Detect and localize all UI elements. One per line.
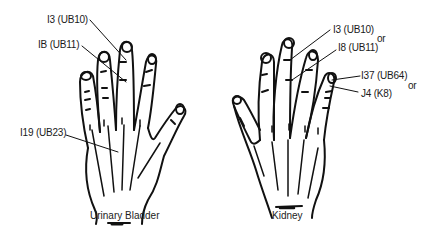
caption-urinary-bladder: Urinary Bladder <box>90 210 159 221</box>
connector-or-2: or <box>408 80 417 91</box>
caption-kidney: Kidney <box>272 210 303 221</box>
diagram-stage: I3 (UB10) IB (UB11) I19 (UB23) I3 (UB10)… <box>0 0 436 241</box>
label-i3-ub10-left: I3 (UB10) <box>47 14 88 25</box>
left-hand-drawing <box>66 20 185 224</box>
label-i37-ub64-right: I37 (UB64) <box>361 70 407 81</box>
connector-or-1: or <box>377 33 386 44</box>
right-hand-drawing <box>233 30 360 218</box>
label-i19-ub23-left: I19 (UB23) <box>20 127 66 138</box>
label-i3-ub10-right: I3 (UB10) <box>333 24 374 35</box>
label-i8-ub11-right: I8 (UB11) <box>338 42 378 53</box>
label-ib-ub11-left: IB (UB11) <box>38 39 79 50</box>
label-j4-k8-right: J4 (K8) <box>361 88 392 99</box>
hands-illustration <box>0 0 436 241</box>
